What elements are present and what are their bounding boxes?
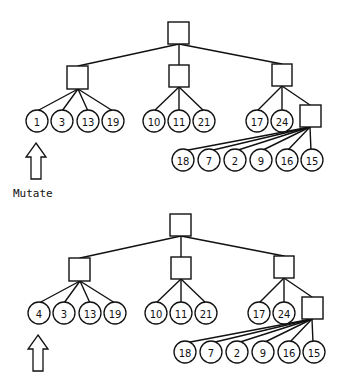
leaf-label: 21 [198, 117, 211, 128]
leaf-label: 17 [251, 117, 264, 128]
leaf-node: 21 [193, 110, 215, 132]
leaf-node: 15 [303, 341, 325, 363]
up-arrow-icon [28, 335, 48, 371]
leaf-node: 2 [226, 341, 248, 363]
leaf-label: 24 [278, 309, 291, 320]
leaf-node: 19 [104, 302, 126, 324]
leaf-label: 13 [84, 309, 97, 320]
edges [39, 236, 313, 343]
leaf-node: 7 [200, 341, 222, 363]
leaf-node: 7 [198, 149, 220, 171]
edges [37, 44, 311, 151]
leaf-label: 18 [179, 348, 192, 359]
up-arrow-icon [26, 143, 46, 179]
leaf-node: 9 [252, 341, 274, 363]
leaf-label: 24 [276, 117, 289, 128]
leaf-label: 7 [206, 156, 212, 167]
leaf-node: 24 [273, 302, 295, 324]
leaf-node: 16 [276, 149, 298, 171]
leaf-node: 2 [224, 149, 246, 171]
leaf-node: 18 [172, 149, 194, 171]
leaf-label: 3 [59, 117, 65, 128]
tree-after: 4 3 13 19 10 11 21 17 24 18 7 2 9 16 15 [28, 214, 325, 371]
leaf-label: 19 [107, 117, 120, 128]
leaf-label: 7 [208, 348, 214, 359]
leaf-label: 11 [173, 117, 186, 128]
leaf-label: 17 [253, 309, 266, 320]
leaf-node: 11 [170, 302, 192, 324]
internal-node-middle [171, 257, 191, 279]
internal-node-subgroup [302, 297, 323, 319]
tree-before: 1 3 13 19 10 11 21 17 24 18 7 2 9 16 15 … [13, 22, 323, 200]
leaf-node: 24 [271, 110, 293, 132]
leaf-node: 17 [246, 110, 268, 132]
leaf-label: 9 [258, 156, 264, 167]
leaf-node: 17 [248, 302, 270, 324]
mutated-leaf-node: 4 [28, 302, 50, 324]
leaf-node: 9 [250, 149, 272, 171]
root-node [170, 214, 191, 236]
internal-node-right [272, 64, 292, 86]
leaf-node: 16 [278, 341, 300, 363]
leaf-node: 3 [53, 302, 75, 324]
leaf-row-1: 4 3 13 19 10 11 21 17 24 [28, 302, 295, 324]
leaf-label: 11 [175, 309, 188, 320]
root-node [168, 22, 189, 44]
internal-node-left [67, 66, 88, 89]
leaf-row-2: 18 7 2 9 16 15 [172, 149, 323, 171]
leaf-row-1: 1 3 13 19 10 11 21 17 24 [26, 110, 293, 132]
leaf-node: 21 [195, 302, 217, 324]
internal-node-middle [169, 65, 189, 87]
leaf-node: 3 [51, 110, 73, 132]
leaf-label: 13 [82, 117, 95, 128]
leaf-node: 13 [77, 110, 99, 132]
leaf-label: 21 [200, 309, 213, 320]
leaf-node: 1 [26, 110, 48, 132]
leaf-node: 10 [145, 302, 167, 324]
leaf-node: 10 [143, 110, 165, 132]
leaf-label: 4 [36, 309, 42, 320]
tree-diagram-canvas: 1 3 13 19 10 11 21 17 24 18 7 2 9 16 15 … [0, 0, 344, 390]
leaf-label: 15 [306, 156, 319, 167]
internal-node-subgroup [300, 105, 321, 127]
internal-node-left [69, 258, 90, 281]
leaf-label: 2 [232, 156, 238, 167]
leaf-label: 9 [260, 348, 266, 359]
leaf-label: 1 [34, 117, 40, 128]
leaf-label: 16 [283, 348, 296, 359]
leaf-label: 10 [150, 309, 163, 320]
leaf-node: 13 [79, 302, 101, 324]
leaf-node: 11 [168, 110, 190, 132]
leaf-label: 19 [109, 309, 122, 320]
leaf-row-2: 18 7 2 9 16 15 [174, 341, 325, 363]
leaf-label: 3 [61, 309, 67, 320]
leaf-node: 19 [102, 110, 124, 132]
leaf-label: 10 [148, 117, 161, 128]
leaf-label: 15 [308, 348, 321, 359]
internal-node-right [274, 256, 294, 278]
leaf-label: 16 [281, 156, 294, 167]
leaf-node: 15 [301, 149, 323, 171]
leaf-node: 18 [174, 341, 196, 363]
leaf-label: 18 [177, 156, 190, 167]
leaf-label: 2 [234, 348, 240, 359]
mutate-caption: Mutate [13, 187, 53, 200]
